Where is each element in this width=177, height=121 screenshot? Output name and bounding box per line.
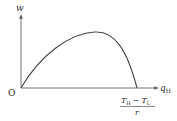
work-curve	[21, 32, 137, 88]
y-axis-label: w	[16, 3, 24, 13]
diagram: w O qH TH−TL r	[0, 0, 177, 121]
svg-text:r: r	[135, 108, 140, 117]
x-axis-label: qH	[160, 83, 171, 94]
x-intercept-label: TH−TL r	[120, 96, 155, 117]
origin-label: O	[8, 88, 15, 98]
svg-text:TH−TL: TH−TL	[121, 96, 151, 106]
